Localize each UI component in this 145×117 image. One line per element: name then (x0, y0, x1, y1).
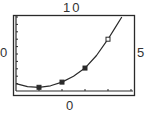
data-points (37, 37, 110, 89)
graph-frame (14, 16, 135, 96)
data-point-marker (37, 85, 41, 89)
fitted-curve (16, 17, 122, 87)
graph-plot (0, 0, 145, 117)
data-point-marker (83, 66, 87, 70)
curve-path (16, 17, 122, 87)
data-point-marker (106, 37, 110, 41)
data-point-marker (60, 80, 64, 84)
